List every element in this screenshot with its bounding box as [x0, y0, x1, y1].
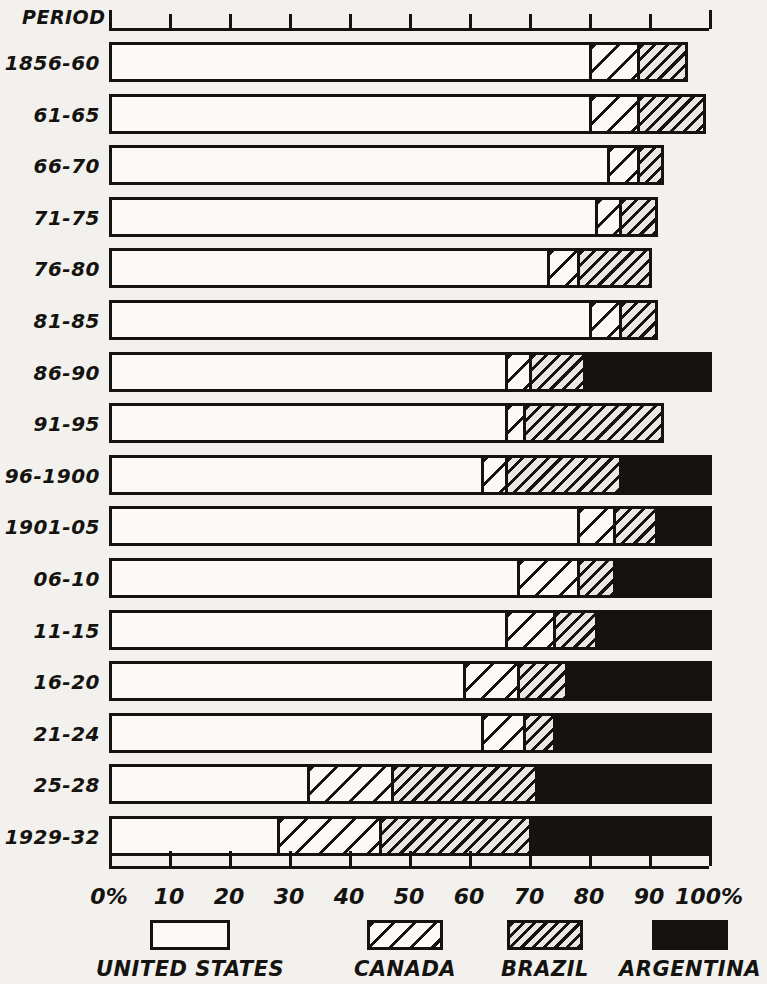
x-tick-label-10: 10: [154, 884, 185, 909]
bar-segment-ar: [583, 352, 712, 392]
bar-segment-br: [619, 300, 658, 340]
legend-label-canada: CANADA: [330, 957, 480, 981]
bar-segment-br: [577, 558, 616, 598]
bar-segment-ar: [655, 506, 712, 546]
row-label-71-75: 71-75: [4, 206, 100, 230]
bar-segment-ca: [595, 197, 622, 237]
bar-segment-br: [379, 816, 532, 856]
legend-swatch-argentina: [652, 920, 728, 950]
bar-segment-us: [109, 764, 310, 804]
row-label-76-80: 76-80: [4, 257, 100, 281]
bar-segment-us: [109, 352, 508, 392]
bar-segment-us: [109, 455, 484, 495]
bar-segment-br: [637, 42, 688, 82]
legend-item-canada[interactable]: CANADA: [330, 920, 480, 981]
bar-segment-ca: [481, 455, 508, 495]
x-tick-70: [529, 851, 532, 866]
bar-segment-ar: [595, 610, 712, 650]
x-tick-label-60: 60: [454, 884, 485, 909]
row-label-16-20: 16-20: [4, 670, 100, 694]
bar-segment-us: [109, 42, 592, 82]
bar-segment-ca: [481, 713, 526, 753]
x-tick-label-80: 80: [574, 884, 605, 909]
bar-segment-ca: [589, 42, 640, 82]
row-label-91-95: 91-95: [4, 412, 100, 436]
x-tick-90: [649, 851, 652, 866]
bar-segment-ar: [613, 558, 712, 598]
row-label-25-28: 25-28: [4, 773, 100, 797]
bar-segment-us: [109, 145, 610, 185]
bar-segment-us: [109, 816, 280, 856]
bar-segment-br: [637, 94, 706, 134]
bar-segment-ar: [529, 816, 712, 856]
row-label-61-65: 61-65: [4, 103, 100, 127]
legend-label-united-states: UNITED STATES: [60, 957, 320, 981]
x-tick-label-group: 0%102030405060708090100%: [0, 884, 767, 918]
bar-segment-us: [109, 94, 592, 134]
bar-segment-us: [109, 610, 508, 650]
bar-segment-br: [613, 506, 658, 546]
row-label-66-70: 66-70: [4, 154, 100, 178]
legend-swatch-brazil: [507, 920, 583, 950]
x-tick-label-20: 20: [214, 884, 245, 909]
x-tick-label-70: 70: [514, 884, 545, 909]
x-tick-10: [169, 851, 172, 866]
bar-segment-us: [109, 713, 484, 753]
plot-area: [109, 14, 709, 854]
bar-segment-us: [109, 506, 580, 546]
bar-segment-br: [619, 197, 658, 237]
x-tick-50: [409, 851, 412, 866]
bar-segment-br: [529, 352, 586, 392]
bar-segment-ca: [307, 764, 394, 804]
chart-root: PERIOD 1856-6061-6566-7071-7576-8081-858…: [0, 0, 767, 984]
legend-item-brazil[interactable]: BRAZIL: [480, 920, 610, 981]
bar-segment-br: [637, 145, 664, 185]
x-tick-80: [589, 851, 592, 866]
x-tick-100pct: [709, 847, 712, 866]
bar-segment-ca: [547, 248, 580, 288]
legend-label-argentina: ARGENTINA: [615, 957, 765, 981]
x-tick-30: [289, 851, 292, 866]
bar-segment-us: [109, 300, 592, 340]
bottom-axis-rail: [109, 866, 709, 869]
x-tick-label-50: 50: [394, 884, 425, 909]
bar-segment-ca: [505, 352, 532, 392]
bar-segment-ca: [277, 816, 382, 856]
legend-label-brazil: BRAZIL: [480, 957, 610, 981]
bar-segment-ca: [517, 558, 580, 598]
bar-segment-ca: [505, 610, 556, 650]
x-tick-label-0pct: 0%: [90, 884, 127, 909]
row-label-81-85: 81-85: [4, 309, 100, 333]
x-tick-100pct: [709, 10, 712, 29]
bar-segment-ca: [577, 506, 616, 546]
legend-item-argentina[interactable]: ARGENTINA: [615, 920, 765, 981]
bar-segment-ca: [589, 300, 622, 340]
bottom-axis: [109, 866, 709, 886]
row-label-96-1900: 96-1900: [4, 464, 100, 488]
row-label-1856-60: 1856-60: [4, 51, 100, 75]
bar-segment-us: [109, 403, 508, 443]
row-label-11-15: 11-15: [4, 619, 100, 643]
row-label-21-24: 21-24: [4, 722, 100, 746]
legend-item-united-states[interactable]: UNITED STATES: [60, 920, 320, 981]
bar-segment-ar: [553, 713, 712, 753]
row-label-86-90: 86-90: [4, 361, 100, 385]
x-tick-20: [229, 851, 232, 866]
legend-swatch-canada: [367, 920, 443, 950]
bar-segment-us: [109, 197, 598, 237]
bar-segment-br: [391, 764, 538, 804]
bar-segment-br: [553, 610, 598, 650]
bar-segment-us: [109, 661, 466, 701]
bar-segment-ar: [535, 764, 712, 804]
legend-swatch-united-states: [150, 920, 230, 950]
x-tick-40: [349, 851, 352, 866]
x-tick-0pct: [109, 847, 112, 866]
x-tick-label-40: 40: [334, 884, 365, 909]
bar-segment-us: [109, 558, 520, 598]
bar-segment-br: [523, 713, 556, 753]
bar-segment-ca: [607, 145, 640, 185]
x-tick-label-100pct: 100%: [675, 884, 743, 909]
period-axis-title: PERIOD: [22, 6, 106, 28]
row-label-1901-05: 1901-05: [4, 515, 100, 539]
bar-segment-br: [517, 661, 568, 701]
